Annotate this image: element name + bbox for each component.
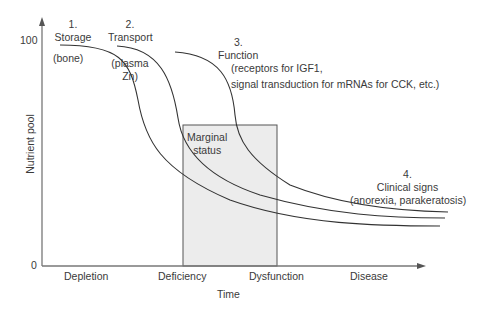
marginal-status-label: Marginal status <box>187 131 227 157</box>
a2-detail: (plasma Zn) <box>110 57 150 83</box>
x-axis-arrow-icon <box>417 263 426 269</box>
a4-num: 4. <box>350 168 465 181</box>
stage-depletion: Depletion <box>64 270 108 283</box>
a3-detail2: signal transduction for mRNAs for CCK, e… <box>231 78 439 91</box>
a3-title: Function <box>218 49 258 62</box>
stage-deficiency: Deficiency <box>158 270 206 283</box>
a1-num: 1. <box>53 18 93 31</box>
y-tick-100: 100 <box>20 34 38 47</box>
marginal-line2: status <box>187 144 227 157</box>
y-tick-0: 0 <box>31 259 37 272</box>
y-axis-label: Nutrient pool <box>24 104 36 184</box>
a2-num: 2. <box>108 18 152 31</box>
a4-detail: (anorexia, parakeratosis) <box>350 194 465 207</box>
a2-detail1: (plasma <box>110 57 150 70</box>
a4-title: Clinical signs <box>350 181 465 194</box>
x-axis-label: Time <box>217 288 240 301</box>
y-axis-arrow-icon <box>39 17 45 26</box>
annotation-storage: 1. Storage <box>53 18 93 44</box>
stage-dysfunction: Dysfunction <box>249 270 304 283</box>
annotation-transport: 2. Transport <box>108 18 152 44</box>
a2-title: Transport <box>108 31 152 44</box>
a3-detail1: (receptors for IGF1, <box>231 62 323 75</box>
marginal-line1: Marginal <box>187 131 227 144</box>
a1-title: Storage <box>53 31 93 44</box>
annotation-clinical: 4. Clinical signs (anorexia, parakeratos… <box>350 168 465 207</box>
stage-disease: Disease <box>350 270 388 283</box>
a3-num: 3. <box>234 36 243 49</box>
a2-detail2: Zn) <box>110 70 150 83</box>
a1-detail: (bone) <box>53 52 83 65</box>
